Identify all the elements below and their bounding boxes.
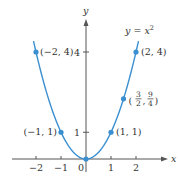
x-tick-label: 1 [108,162,114,173]
point-label: (−2, 4) [40,46,74,57]
parabola-figure: x y −2−1012 14 (−2, 4)(−1, 1)(1, 1)(32,9… [0,0,180,188]
y-tick-label: 1 [74,127,80,138]
y-ticks: 14 [74,47,89,138]
x-axis-label: x [171,153,177,164]
point-label: (32,94) [129,90,159,109]
y-axis-label: y [82,5,89,16]
point-label: (−1, 1) [23,126,57,137]
data-point [133,49,138,54]
x-axis-arrow-icon [161,157,168,162]
point-label: (1, 1) [116,126,142,137]
data-point [33,49,38,54]
data-point [83,156,88,161]
function-label: y = x2 [124,24,154,36]
data-point [108,130,113,135]
fraction-denominator: 2 [136,99,141,108]
point-label: (2, 4) [141,46,167,57]
paren: ( [129,95,133,106]
function-label-eq: = [130,25,144,36]
x-tick-label: 2 [133,162,139,173]
x-tick-label: 0 [78,162,84,173]
paren: ) [155,95,159,106]
fraction-numerator: 9 [148,90,153,99]
y-tick-label: 4 [74,47,80,58]
x-tick-label: −1 [54,162,68,173]
data-point [58,130,63,135]
x-tick-label: −2 [29,162,43,173]
comma: , [143,95,146,106]
function-label-exp: 2 [150,24,154,32]
fraction-numerator: 3 [136,90,141,99]
data-point [121,96,126,101]
points: (−2, 4)(−1, 1)(1, 1)(32,94)(2, 4) [23,46,166,162]
y-axis-arrow-icon [84,19,89,26]
fraction-denominator: 4 [148,99,153,108]
